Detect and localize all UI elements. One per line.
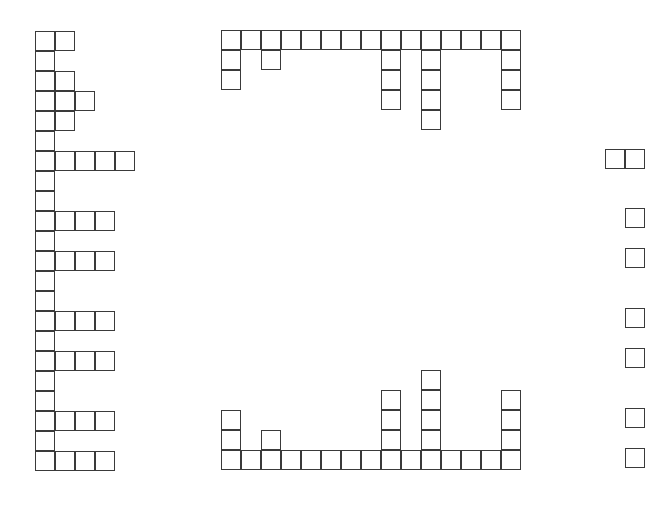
grid-cell: [625, 408, 645, 428]
grid-cell: [625, 208, 645, 228]
grid-cell: [625, 448, 645, 468]
right-edge-grid: [0, 0, 645, 506]
grid-cell: [625, 149, 645, 169]
grid-cell: [625, 348, 645, 368]
grid-cell: [605, 149, 625, 169]
grid-cell: [625, 248, 645, 268]
grid-cell: [625, 308, 645, 328]
